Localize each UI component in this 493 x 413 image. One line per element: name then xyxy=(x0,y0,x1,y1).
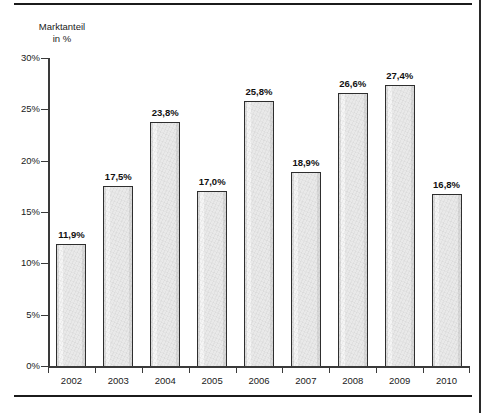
chart-figure: Marktanteil in % 0%5%10%15%20%25%30% 11,… xyxy=(0,0,493,413)
bar-value-label: 18,9% xyxy=(280,157,332,168)
y-axis-tick xyxy=(41,212,48,213)
bar xyxy=(385,85,415,366)
bar-value-label: 17,0% xyxy=(186,176,238,187)
y-axis-title-line-1: Marktanteil xyxy=(39,21,85,32)
y-axis-tick-label: 0% xyxy=(6,360,40,371)
plot-area: 11,9%17,5%23,8%17,0%25,8%18,9%26,6%27,4%… xyxy=(48,58,470,366)
x-axis-tick xyxy=(189,366,190,373)
bar-value-label: 16,8% xyxy=(421,179,473,190)
y-axis-tick xyxy=(41,109,48,110)
x-axis-category-label: 2002 xyxy=(45,375,97,386)
x-axis-category-label: 2003 xyxy=(92,375,144,386)
x-axis-tick xyxy=(376,366,377,373)
bar xyxy=(291,172,321,366)
y-axis-title: Marktanteil in % xyxy=(14,21,110,45)
x-axis-tick xyxy=(469,366,470,373)
x-axis-category-label: 2004 xyxy=(139,375,191,386)
bar xyxy=(244,101,274,366)
x-axis-category-label: 2010 xyxy=(421,375,473,386)
bar-value-label: 25,8% xyxy=(233,86,285,97)
x-axis-category-label: 2006 xyxy=(233,375,285,386)
y-axis-tick-label: 15% xyxy=(6,206,40,217)
bar xyxy=(197,191,227,366)
right-border-rule xyxy=(479,0,481,413)
y-axis-tick xyxy=(41,58,48,59)
y-axis-tick-label: 20% xyxy=(6,155,40,166)
x-axis-tick xyxy=(48,366,49,373)
x-axis-category-label: 2005 xyxy=(186,375,238,386)
y-axis-line xyxy=(48,58,50,366)
x-axis-tick xyxy=(95,366,96,373)
x-axis-category-label: 2007 xyxy=(280,375,332,386)
y-axis-tick-label: 25% xyxy=(6,103,40,114)
top-divider-rule xyxy=(14,3,472,5)
x-axis-category-label: 2009 xyxy=(374,375,426,386)
bar xyxy=(432,194,462,366)
y-axis-tick xyxy=(41,263,48,264)
y-axis-title-line-2: in % xyxy=(14,33,110,45)
y-axis-tick-label: 5% xyxy=(6,309,40,320)
bar-value-label: 27,4% xyxy=(374,70,426,81)
x-axis-tick xyxy=(423,366,424,373)
bar-value-label: 11,9% xyxy=(45,229,97,240)
y-axis-tick xyxy=(41,161,48,162)
bar xyxy=(103,186,133,366)
bar xyxy=(338,93,368,366)
x-axis-tick xyxy=(142,366,143,373)
x-axis-category-label: 2008 xyxy=(327,375,379,386)
y-axis-tick-label: 30% xyxy=(6,52,40,63)
y-axis-tick-label: 10% xyxy=(6,257,40,268)
bar xyxy=(150,122,180,366)
bar xyxy=(56,244,86,366)
x-axis-tick xyxy=(282,366,283,373)
y-axis-tick xyxy=(41,315,48,316)
x-axis-tick xyxy=(236,366,237,373)
bar-value-label: 26,6% xyxy=(327,78,379,89)
bar-value-label: 17,5% xyxy=(92,171,144,182)
bar-value-label: 23,8% xyxy=(139,107,191,118)
y-axis-tick xyxy=(41,366,48,367)
x-axis-tick xyxy=(329,366,330,373)
x-axis-line xyxy=(48,366,470,368)
bottom-divider-rule xyxy=(14,395,472,397)
